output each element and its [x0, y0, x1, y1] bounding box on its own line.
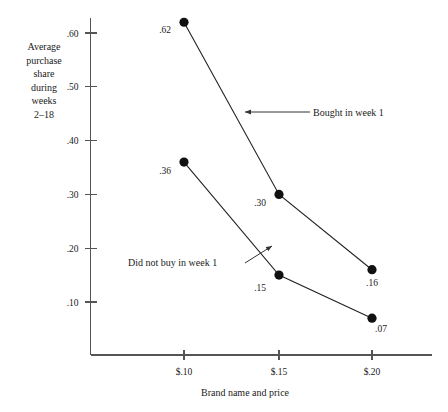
- data-point-marker: [179, 158, 188, 167]
- y-tick-label: .60: [67, 29, 79, 39]
- series-line-2: [184, 162, 372, 318]
- y-axis-title-line: during: [31, 82, 57, 93]
- y-tick-label: .20: [67, 244, 79, 254]
- data-point-marker: [274, 190, 283, 199]
- y-tick-label: .10: [67, 298, 79, 308]
- y-tick-label: .50: [67, 82, 79, 92]
- data-point-label: .62: [159, 25, 171, 35]
- x-axis-ticks: $.10$.15$.20: [176, 350, 381, 377]
- y-axis-title-line: 2–18: [34, 109, 54, 120]
- x-tick-label: $.15: [271, 367, 288, 377]
- x-tick-label: $.20: [364, 367, 381, 377]
- x-tick-label: $.10: [176, 367, 193, 377]
- data-point-label: .16: [366, 278, 378, 288]
- annotation-label-2: Did not buy in week 1: [128, 257, 217, 268]
- data-point-markers: [179, 18, 376, 323]
- series-annotations: Bought in week 1Did not buy in week 1: [128, 107, 384, 268]
- data-point-label: .30: [254, 198, 266, 208]
- data-point-marker: [274, 271, 283, 280]
- y-axis-title-line: share: [33, 68, 55, 79]
- y-axis-ticks: .60.50.40.30.20.10: [67, 29, 97, 308]
- annotation-label-1: Bought in week 1: [313, 107, 384, 118]
- data-point-label: .15: [254, 283, 266, 293]
- y-axis-title-line: purchase: [26, 55, 62, 66]
- chart-axes: [91, 18, 433, 355]
- chart-figure: .60.50.40.30.20.10 $.10$.15$.20 .62.30.1…: [0, 0, 448, 412]
- y-axis-title: Averagepurchaseshareduringweeks2–18: [26, 41, 62, 120]
- line-chart-canvas: .60.50.40.30.20.10 $.10$.15$.20 .62.30.1…: [0, 0, 448, 412]
- y-axis-title-line: weeks: [32, 95, 57, 106]
- data-point-label: .36: [159, 166, 171, 176]
- data-point-label: .07: [375, 324, 387, 334]
- data-point-marker: [367, 314, 376, 323]
- y-tick-label: .30: [67, 190, 79, 200]
- data-point-labels: .62.30.16.36.15.07: [159, 25, 387, 334]
- data-point-marker: [179, 18, 188, 27]
- x-axis-title: Brand name and price: [201, 387, 290, 398]
- y-tick-label: .40: [67, 136, 79, 146]
- data-point-marker: [367, 265, 376, 274]
- y-axis-title-line: Average: [27, 41, 61, 52]
- series-line-1: [184, 22, 372, 269]
- annotation-arrow-2: [245, 246, 272, 263]
